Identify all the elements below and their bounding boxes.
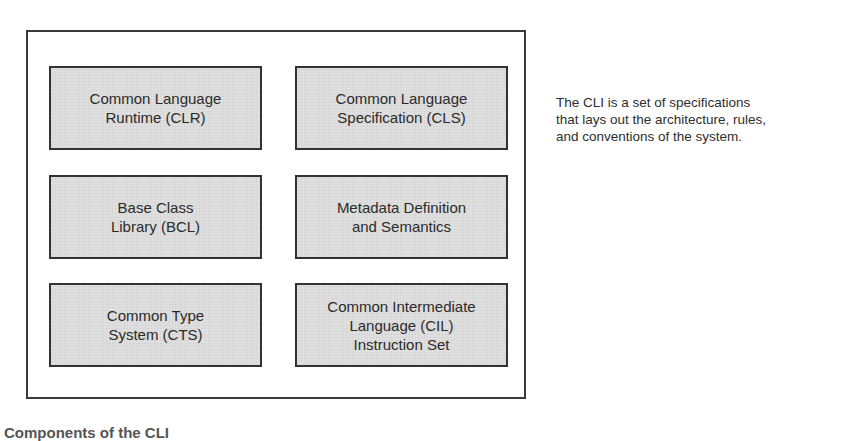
box-metadata-label: Metadata Definition and Semantics [337,198,466,236]
box-bcl: Base Class Library (BCL) [49,175,262,259]
figure-caption: Components of the CLI [4,424,169,441]
cli-annotation: The CLI is a set of specifications that … [556,94,856,145]
box-cts-label: Common Type System (CTS) [107,306,204,344]
box-cil: Common Intermediate Language (CIL) Instr… [295,283,508,367]
box-cls: Common Language Specification (CLS) [295,66,508,150]
box-bcl-label: Base Class Library (BCL) [111,198,200,236]
box-clr-label: Common Language Runtime (CLR) [90,89,222,127]
box-clr: Common Language Runtime (CLR) [49,66,262,150]
box-cil-label: Common Intermediate Language (CIL) Instr… [327,297,475,354]
box-metadata: Metadata Definition and Semantics [295,175,508,259]
box-cts: Common Type System (CTS) [49,283,262,367]
box-cls-label: Common Language Specification (CLS) [336,89,468,127]
